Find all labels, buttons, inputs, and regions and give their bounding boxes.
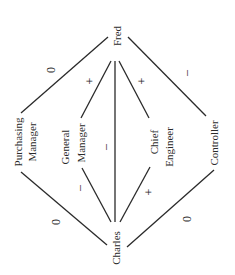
edge-general-charles: [82, 168, 111, 222]
node-purchasing-line1: Purchasing: [12, 117, 24, 166]
relationship-diagram: 0 + – + – 0 – + 0 Fred Charles Purchasin…: [0, 0, 235, 275]
node-general-line2: Manager: [75, 123, 87, 162]
node-fred: Fred: [111, 25, 123, 46]
edge-controller-charles: [127, 170, 214, 247]
edge-purchasing-charles: [21, 172, 107, 245]
node-chief-line2: Engineer: [163, 127, 175, 167]
node-purchasing-line2: Manager: [26, 122, 38, 161]
sign-controller-charles: 0: [180, 216, 194, 222]
sign-fred-purchasing: 0: [44, 67, 58, 73]
sign-fred-controller: –: [179, 69, 193, 77]
edge-fred-purchasing: [21, 37, 108, 113]
node-general-line1: General: [59, 130, 71, 165]
sign-fred-general: +: [83, 77, 97, 84]
node-chief-line1: Chief: [148, 129, 160, 154]
node-controller: Controller: [208, 120, 220, 166]
edge-fred-general: [81, 61, 111, 118]
edge-fred-controller: [128, 37, 206, 116]
sign-general-charles: –: [72, 184, 86, 192]
sign-chief-charles: +: [142, 188, 156, 195]
sign-purchasing-charles: 0: [49, 219, 63, 225]
edge-fred-chief: [119, 61, 149, 118]
sign-fred-charles: –: [98, 143, 112, 151]
node-charles: Charles: [110, 231, 122, 265]
sign-fred-chief: +: [135, 77, 149, 84]
